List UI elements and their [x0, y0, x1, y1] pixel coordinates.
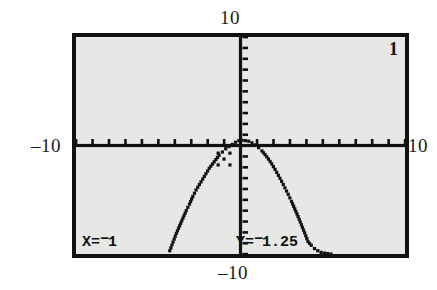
graph-plot: [76, 37, 405, 254]
calculator-figure: 10 –10 –10 10 1 X=−1 Y=−1.25: [0, 0, 437, 290]
x-axis-tick: [124, 139, 127, 144]
y-axis-line: [239, 37, 242, 254]
curve-pixel: [320, 251, 323, 254]
x-axis-tick: [223, 139, 226, 144]
curve-pixel: [180, 219, 183, 222]
y-axis-tick: [243, 47, 249, 50]
cursor-arm: [217, 152, 220, 155]
curve-pixel: [282, 183, 285, 186]
curve-pixel: [216, 156, 219, 159]
curve-pixel: [323, 252, 326, 254]
window-label-ymax: 10: [220, 8, 240, 27]
x-axis-tick: [157, 139, 160, 144]
curve-pixel: [308, 242, 311, 245]
curve-pixel: [241, 139, 244, 142]
y-axis-tick: [243, 112, 249, 115]
x-axis-tick: [174, 139, 177, 144]
x-axis-tick: [371, 139, 374, 144]
x-axis-tick: [206, 139, 209, 144]
curve-pixel: [231, 143, 234, 146]
curve-pixel: [227, 145, 230, 148]
x-axis-tick: [256, 139, 259, 144]
curve-pixel: [206, 169, 209, 172]
curve-pixel: [171, 240, 174, 243]
curve-pixel: [209, 165, 212, 168]
curve-pixel: [278, 177, 281, 180]
curve-pixel: [272, 165, 275, 168]
trace-x-sign: −: [100, 231, 108, 248]
x-axis-tick: [387, 139, 390, 144]
curve-pixel: [305, 237, 308, 240]
curve-pixel: [184, 212, 187, 215]
curve-pixel: [316, 249, 319, 252]
curve-pixel: [275, 171, 278, 174]
y-axis-tick: [243, 37, 249, 38]
cursor-arm: [217, 163, 220, 166]
curve-pixel: [221, 150, 224, 153]
curve-pixel: [169, 246, 172, 249]
window-label-xmin: –10: [31, 136, 61, 155]
y-axis-tick: [243, 79, 249, 82]
x-axis-tick: [322, 139, 325, 144]
curve-pixel: [326, 252, 329, 254]
trace-x-prefix: X=: [82, 234, 100, 251]
curve-pixel: [329, 252, 332, 254]
y-axis-tick: [243, 133, 249, 136]
x-axis-tick: [289, 139, 292, 144]
trace-x-value: 1: [108, 234, 117, 251]
y-axis-tick: [243, 90, 249, 93]
curve-pixel: [173, 238, 176, 241]
curve-pixel: [174, 235, 177, 238]
x-axis-tick: [190, 139, 193, 144]
trace-y-readout: Y=−1.25: [236, 232, 298, 250]
curve-pixel: [250, 141, 253, 144]
axes-group: [76, 37, 405, 254]
trace-cursor-marker: [217, 152, 232, 167]
curve-pixel: [288, 196, 291, 199]
curve-pixel: [269, 160, 272, 163]
y-axis-tick: [243, 199, 249, 202]
curve-pixel: [304, 234, 307, 237]
curve-pixel: [262, 151, 265, 154]
curve-pixel: [254, 143, 257, 146]
x-axis-tick: [305, 139, 308, 144]
screen-canvas: 1 X=−1 Y=−1.25: [76, 37, 405, 254]
curve-pixel: [285, 189, 288, 192]
trace-y-sign: −: [254, 231, 262, 248]
x-axis-tick: [404, 139, 405, 144]
curve-pixel: [193, 192, 196, 195]
y-axis-tick: [243, 220, 249, 223]
curve-pixel: [203, 175, 206, 178]
curve-pixel: [302, 229, 305, 232]
y-axis-tick: [243, 166, 249, 169]
y-axis-tick: [243, 177, 249, 180]
curve-pixel: [170, 243, 173, 246]
x-axis-tick: [141, 139, 144, 144]
cursor-arm: [228, 152, 231, 155]
x-axis-tick: [108, 139, 111, 144]
y-axis-tick: [243, 209, 249, 212]
curve-pixel: [213, 160, 216, 163]
curve-pixel: [265, 155, 268, 158]
window-label-ymin: –10: [218, 263, 248, 282]
curve-pixel: [313, 247, 316, 250]
y-axis-tick: [243, 101, 249, 104]
calculator-screen[interactable]: 1 X=−1 Y=−1.25: [72, 33, 409, 258]
figure-number-badge: 1: [389, 40, 398, 58]
x-axis-tick: [338, 139, 341, 144]
x-axis-tick: [354, 139, 357, 144]
y-axis-tick: [243, 58, 249, 61]
curve-pixel: [287, 193, 290, 196]
curve-pixel: [283, 186, 286, 189]
curve-pixel: [196, 186, 199, 189]
curve-pixel: [244, 139, 247, 142]
x-axis-tick: [91, 139, 94, 144]
curve-pixel: [177, 227, 180, 230]
curve-pixel: [295, 212, 298, 215]
curve-pixel: [292, 205, 295, 208]
curve-pixel: [280, 180, 283, 183]
curve-pixel: [237, 139, 240, 142]
y-axis-tick: [243, 155, 249, 158]
curve-pixel: [224, 147, 227, 150]
curve-pixel: [199, 180, 202, 183]
